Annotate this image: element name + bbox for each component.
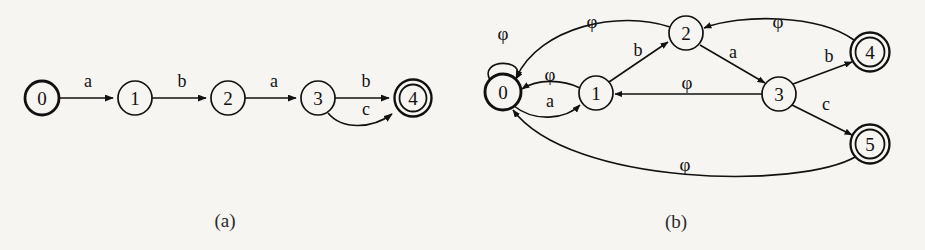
state-b-5-accepting: 5 bbox=[851, 125, 890, 164]
state-label: 1 bbox=[591, 83, 601, 104]
state-a-0: 0 bbox=[25, 81, 59, 115]
edge-label-b-0-1: a bbox=[546, 91, 554, 111]
state-a-4-accepting: 4 bbox=[395, 80, 432, 117]
state-label: 3 bbox=[774, 84, 784, 105]
edge-label-a-2-3: a bbox=[270, 71, 278, 91]
state-label: 1 bbox=[130, 88, 140, 109]
state-label: 2 bbox=[223, 88, 233, 109]
edge-label-a-1-2: b bbox=[178, 71, 187, 91]
edge-label-b-3-1: φ bbox=[682, 72, 693, 93]
state-a-2: 2 bbox=[211, 81, 245, 115]
state-b-4-accepting: 4 bbox=[851, 33, 890, 72]
edge-label-b-1-2: b bbox=[634, 40, 643, 60]
state-label: 0 bbox=[37, 88, 47, 109]
state-label: 0 bbox=[498, 82, 508, 103]
edge-label-a-0-1: a bbox=[84, 71, 92, 91]
state-a-3: 3 bbox=[301, 81, 335, 115]
state-label: 2 bbox=[681, 23, 691, 44]
diagram-b: 0 1 2 3 4 5 bbox=[485, 11, 890, 177]
figure-canvas: 0 1 2 3 4 a b a b c bbox=[0, 0, 925, 250]
diagram-a: 0 1 2 3 4 a b a b c bbox=[25, 71, 432, 126]
edge-label-b-5-0: φ bbox=[680, 154, 691, 175]
transition-a-3-4-c bbox=[328, 113, 392, 126]
transition-b-3-4 bbox=[793, 62, 852, 84]
caption-b: (b) bbox=[665, 211, 687, 233]
state-b-1: 1 bbox=[579, 76, 613, 110]
edge-label-a-3-4-b: b bbox=[362, 71, 371, 91]
edge-label-b-3-5: c bbox=[822, 94, 830, 114]
state-label: 3 bbox=[313, 88, 323, 109]
edge-label-b-0-self: φ bbox=[498, 23, 509, 44]
state-label: 4 bbox=[865, 42, 875, 63]
edge-label-b-2-3: a bbox=[729, 42, 737, 62]
state-a-1: 1 bbox=[118, 81, 152, 115]
edge-label-b-2-0: φ bbox=[587, 11, 598, 32]
automata-figure: 0 1 2 3 4 a b a b c bbox=[0, 0, 925, 250]
state-b-3: 3 bbox=[762, 77, 796, 111]
edge-label-b-3-4: b bbox=[825, 46, 834, 66]
edge-label-a-3-4-c: c bbox=[362, 99, 370, 119]
edge-label-b-1-0: φ bbox=[545, 64, 556, 85]
state-label: 5 bbox=[865, 134, 875, 155]
state-b-2: 2 bbox=[669, 16, 703, 50]
state-b-0: 0 bbox=[485, 74, 521, 110]
state-label: 4 bbox=[408, 88, 418, 109]
edge-label-b-4-2: φ bbox=[773, 11, 784, 32]
caption-a: (a) bbox=[214, 210, 235, 232]
